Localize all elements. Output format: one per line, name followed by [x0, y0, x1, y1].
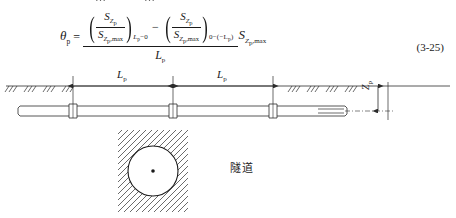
limit-2-tail: )	[231, 33, 234, 41]
right-paren-2: )	[202, 12, 208, 42]
ground-hatch-right	[288, 86, 357, 92]
right-paren-1: )	[126, 12, 132, 42]
equation-row: θp = ( SZp SZp,max ) Lp−0 −	[60, 8, 266, 66]
main-fraction: ( SZp SZp,max ) Lp−0 − ( SZp	[83, 10, 238, 64]
formula-block: θp = ( SZp SZp,max ) Lp−0 −	[0, 8, 456, 66]
evaluation-limit-1: Lp−0	[133, 33, 148, 42]
evaluation-limit-2: 0−(−Lp)	[209, 33, 234, 42]
ratio-fraction-2: SZp SZp,max	[172, 10, 201, 45]
limit-2-symbol: 0−(−L	[209, 33, 228, 41]
ratio-fraction-1: SZp SZp,max	[96, 10, 125, 45]
trailing-factor: SZp,max	[239, 27, 267, 47]
pipe-joint	[69, 104, 77, 118]
limit-1-tail: −0	[140, 33, 148, 41]
lp-2-subscript: p	[223, 75, 227, 83]
equals-sign: =	[73, 30, 80, 45]
trailing-max-sub: ,max	[252, 37, 266, 45]
equation-number: (3-25)	[417, 41, 445, 53]
numerator-term-2: ( SZp SZp,max ) 0−(−Lp)	[163, 10, 234, 45]
max-sub-1d: ,max	[110, 35, 123, 42]
ground-hatch-left	[5, 86, 74, 92]
left-paren-2: (	[165, 12, 171, 42]
numerator-term-1: ( SZp SZp,max ) Lp−0	[87, 10, 148, 45]
ratio-2-numerator: SZp	[178, 10, 194, 27]
ratio-1-numerator: SZp	[102, 10, 118, 27]
p-sub-1n: p	[113, 19, 116, 26]
p-sub-2n: p	[189, 19, 192, 26]
pipe-joint	[269, 104, 277, 118]
theta-subscript: p	[66, 37, 70, 46]
pipeline-body	[18, 106, 347, 116]
lp-symbol: L	[155, 48, 162, 62]
dimension-label-lp-1: Lp	[117, 68, 127, 83]
top-cut-text-fragment: ……	[95, 0, 295, 3]
minus-operator: −	[152, 20, 159, 35]
tunnel-centre-point	[151, 169, 155, 173]
dimension-label-zp: Zp	[360, 81, 374, 90]
pipe-tail	[318, 109, 344, 113]
lp-1-subscript: p	[123, 75, 127, 83]
zp-subscript: p	[366, 81, 374, 85]
zp-symbol: Z	[360, 84, 371, 90]
max-sub-2d: ,max	[186, 35, 199, 42]
lp-subscript: p	[162, 56, 166, 64]
fraction-numerator: ( SZp SZp,max ) Lp−0 − ( SZp	[83, 10, 238, 46]
ratio-1-denominator: SZp,max	[96, 28, 125, 45]
fraction-denominator: Lp	[151, 47, 169, 64]
left-paren-1: (	[89, 12, 95, 42]
ratio-2-denominator: SZp,max	[172, 28, 201, 45]
pipeline-elevation-diagram: Lp Lp Zp	[0, 68, 456, 126]
pipe-joint	[169, 104, 177, 118]
dimension-label-lp-2: Lp	[217, 68, 227, 83]
tunnel-cross-section-figure: 隧道	[110, 126, 360, 218]
tunnel-label: 隧道	[230, 159, 254, 175]
theta-p-term: θp	[60, 28, 70, 46]
